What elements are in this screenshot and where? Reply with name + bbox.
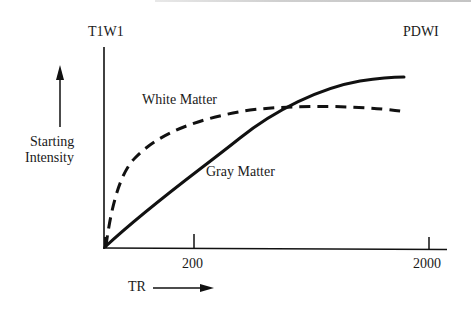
y-axis-label-line2: Intensity bbox=[25, 150, 74, 166]
gray-matter-label: Gray Matter bbox=[206, 164, 275, 180]
x-axis-label: TR bbox=[128, 279, 146, 295]
pdwi-label: PDWI bbox=[403, 24, 439, 40]
right-arrow-icon bbox=[200, 284, 214, 292]
white-matter-label: White Matter bbox=[142, 92, 217, 108]
y-axis-label-line1: Starting bbox=[30, 134, 74, 150]
x-tick-label-200: 200 bbox=[182, 256, 203, 272]
x-tick-label-2000: 2000 bbox=[413, 256, 441, 272]
t1w1-label: T1W1 bbox=[88, 24, 124, 40]
up-arrow-icon bbox=[56, 65, 64, 80]
x-axis bbox=[103, 248, 447, 250]
